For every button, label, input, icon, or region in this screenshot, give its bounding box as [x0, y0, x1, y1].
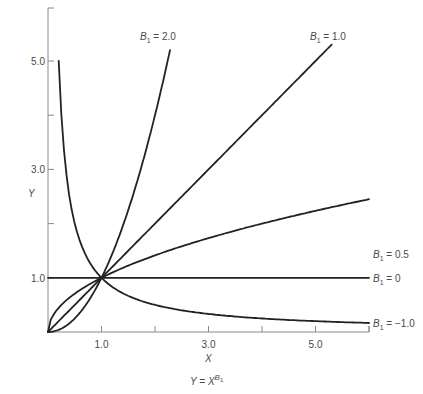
series-label: B1 = 0	[373, 273, 401, 286]
caption-exponent-subscript: 1	[220, 377, 224, 383]
curve-b1--1.0	[59, 61, 369, 323]
curve-b1-2.0	[48, 50, 170, 332]
power-function-chart: 1.03.05.01.03.05.0 B1 = 2.0B1 = 1.0B1 = …	[0, 0, 423, 394]
x-tick-label: 3.0	[202, 339, 216, 350]
series-labels: B1 = 2.0B1 = 1.0B1 = 0.5B1 = 0B1 = −1.0	[140, 31, 415, 331]
y-tick-label: 1.0	[31, 273, 45, 284]
x-tick-label: 1.0	[95, 339, 109, 350]
curve-b1-0.5	[48, 199, 369, 332]
series-label: B1 = 0.5	[373, 249, 409, 262]
x-axis-label: X	[204, 353, 212, 364]
tick-marks	[48, 61, 369, 332]
y-axis-label: Y	[28, 188, 36, 199]
y-tick-label: 5.0	[31, 56, 45, 67]
series-label: B1 = 1.0	[310, 31, 346, 44]
chart-caption: Y = XB1	[190, 373, 224, 387]
curves	[48, 45, 369, 332]
series-label: B1 = −1.0	[373, 318, 415, 331]
y-tick-label: 3.0	[31, 164, 45, 175]
series-label: B1 = 2.0	[140, 31, 176, 44]
x-tick-label: 5.0	[309, 339, 323, 350]
caption-lhs: Y = X	[190, 376, 215, 387]
curve-b1-1.0	[48, 45, 332, 332]
